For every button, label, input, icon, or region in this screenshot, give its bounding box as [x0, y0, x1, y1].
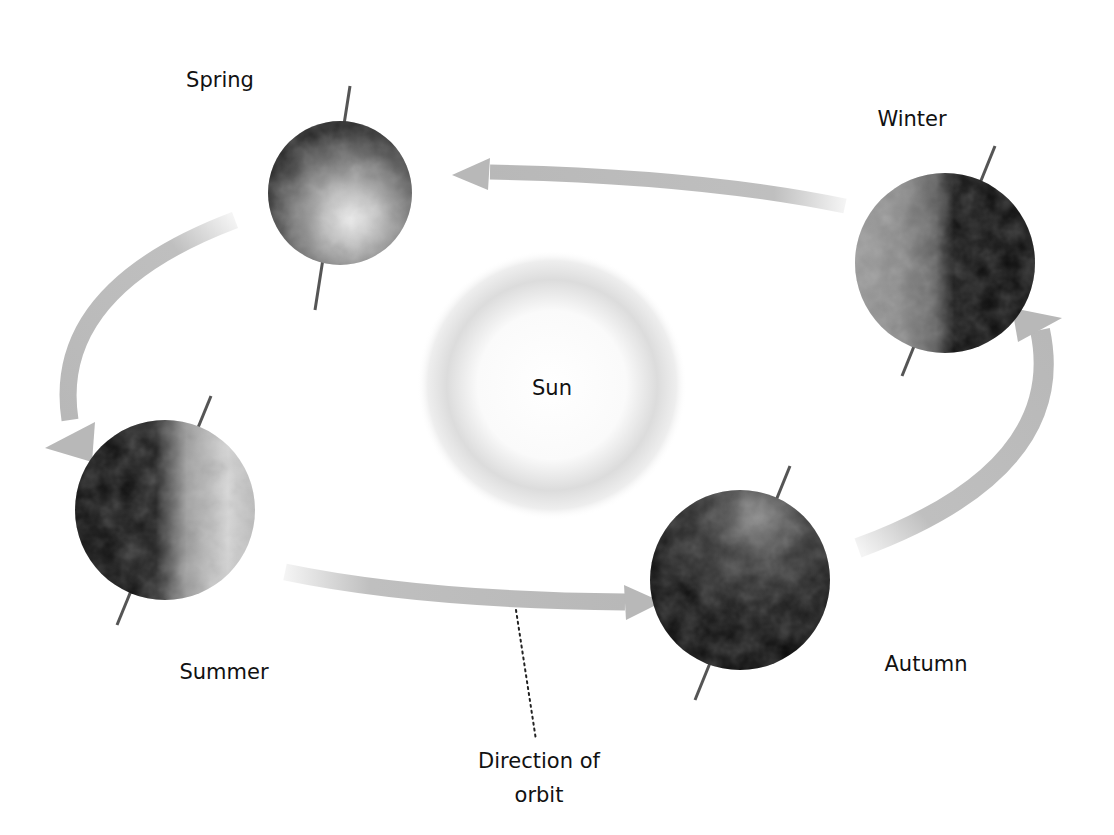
label-summer: Summer — [179, 660, 268, 684]
label-direction-of-orbit: Direction of orbit — [478, 744, 600, 812]
callout-leader-line — [516, 610, 536, 740]
earth-winter — [855, 146, 1035, 376]
label-autumn: Autumn — [885, 652, 968, 676]
seasons-diagram — [0, 0, 1114, 835]
label-sun: Sun — [532, 376, 572, 400]
label-spring: Spring — [186, 68, 254, 92]
callout-line-1: Direction of — [478, 744, 600, 778]
earth-summer — [75, 396, 255, 625]
arrow-summer-to-autumn — [285, 572, 662, 620]
arrow-winter-to-spring — [452, 158, 845, 206]
callout-line-2: orbit — [478, 778, 600, 812]
earth-autumn — [650, 466, 830, 700]
label-winter: Winter — [877, 107, 946, 131]
earth-spring — [268, 86, 412, 310]
